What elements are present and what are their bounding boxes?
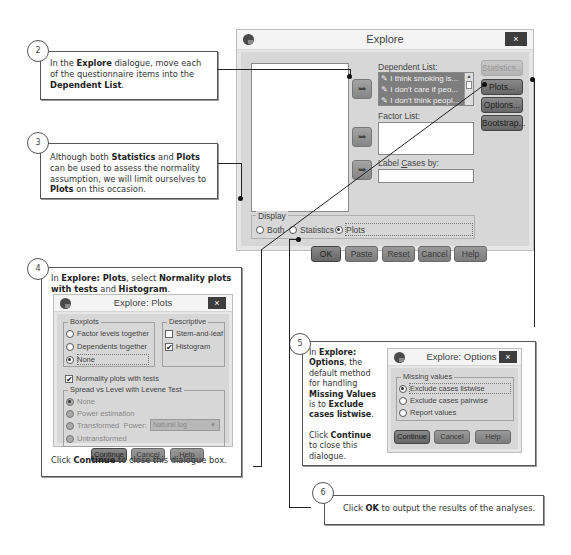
options-button[interactable]: Options... (481, 97, 523, 113)
explore-title: Explore (237, 33, 533, 45)
factor-list-label: Factor List: (378, 111, 420, 121)
callout-text: Although both Statistics and Plots can b… (50, 152, 206, 194)
plots-titlebar: Explore: Plots × (54, 295, 232, 312)
plots-body: Boxplots Factor levels together Dependen… (57, 314, 229, 443)
dependent-list-scrollbar[interactable]: ▲ (464, 73, 473, 105)
step-number-4: 4 (27, 258, 49, 280)
step-number-3: 3 (27, 132, 49, 154)
exclude-pairwise-radio[interactable]: Exclude cases pairwise (399, 396, 488, 406)
connector-line (261, 250, 262, 466)
close-icon[interactable]: × (208, 297, 226, 309)
power-estimation-radio[interactable]: Power estimation (66, 409, 135, 419)
exclude-listwise-radio[interactable]: Exclude cases listwise (399, 384, 485, 394)
explore-body: ➥ ➥ ➥ Dependent List: ✎ I think smoking … (241, 52, 529, 246)
callout-step-6: Click OK to output the results of the an… (324, 495, 544, 525)
callout-footer: Click Continue to close this dialogue. (309, 431, 379, 462)
callout-text: Click OK to output the results of the an… (343, 503, 535, 513)
paste-button[interactable]: Paste (345, 246, 378, 262)
bootstrap-button[interactable]: Bootstrap... (481, 115, 523, 131)
missing-values-group-label: Missing values (401, 372, 454, 382)
connector-line (218, 163, 241, 164)
connector-line (289, 507, 311, 508)
callout-step-3: Although both Statistics and Plots can b… (40, 143, 218, 199)
reset-button[interactable]: Reset (382, 246, 415, 262)
plots-title: Explore: Plots (54, 297, 232, 309)
stem-and-leaf-checkbox[interactable]: Stem-and-leaf (165, 329, 223, 339)
transformed-radio[interactable]: Transformed Power: (66, 421, 147, 431)
display-statistics-radio[interactable]: Statistics (289, 225, 334, 235)
callout-step-5: In Explore: Options, the default method … (302, 341, 536, 466)
connector-dot (238, 196, 243, 201)
explore-dialog: Explore × ➥ ➥ ➥ Dependent List: ✎ I thin… (236, 29, 534, 251)
connector-line (218, 69, 350, 70)
close-icon[interactable]: × (499, 351, 517, 363)
label-cases-field[interactable] (378, 169, 474, 183)
explore-titlebar: Explore × (237, 30, 533, 50)
callout-step-2: In the Explore dialogue, move each of th… (40, 51, 218, 100)
display-group: Display Both Statistics Plots (251, 215, 475, 239)
continue-button[interactable]: Continue (394, 430, 430, 444)
cancel-button[interactable]: Cancel (434, 430, 470, 444)
connector-line (241, 163, 242, 198)
source-variable-list[interactable] (251, 63, 349, 212)
explore-plots-dialog: Explore: Plots × Boxplots Factor levels … (53, 294, 233, 447)
boxplots-group: Boxplots Factor levels together Dependen… (63, 322, 155, 367)
normality-plots-checkbox[interactable]: ✔Normality plots with tests (65, 374, 159, 384)
none-radio[interactable]: None (66, 355, 95, 365)
factor-list[interactable] (378, 122, 474, 155)
connector-line (289, 239, 290, 507)
label-cases-label: Label Cases by: (378, 158, 439, 168)
connector-line (253, 466, 262, 467)
power-dropdown[interactable]: Natural log▼ (150, 419, 220, 431)
dependent-item[interactable]: ✎ I don't care if peo... (381, 85, 458, 94)
dependent-item[interactable]: ✎ I think smoking is... (381, 74, 458, 83)
options-titlebar: Explore: Options × (388, 349, 521, 366)
power-label: Power: (123, 421, 146, 431)
display-both-radio[interactable]: Both (256, 225, 285, 235)
move-to-label-cases-arrow-icon[interactable]: ➥ (352, 160, 372, 180)
options-body: Missing values Exclude cases listwise Ex… (391, 368, 518, 449)
connector-dot (530, 77, 535, 82)
cancel-button[interactable]: Cancel (418, 246, 451, 262)
untransformed-radio[interactable]: Untransformed (66, 434, 127, 444)
callout-footer: Click Continue to close this dialogue bo… (51, 455, 227, 466)
close-icon[interactable]: × (505, 32, 527, 46)
help-button[interactable]: Help (454, 246, 487, 262)
move-to-factor-arrow-icon[interactable]: ➥ (352, 127, 372, 147)
ok-button[interactable]: OK (311, 246, 341, 262)
statistics-button[interactable]: Statistics... (481, 60, 523, 76)
dependent-list-label: Dependent List: (378, 62, 438, 72)
callout-text: In the Explore dialogue, move each of th… (50, 58, 201, 90)
boxplots-group-label: Boxplots (68, 317, 101, 327)
step-number-2: 2 (27, 40, 49, 62)
histogram-checkbox[interactable]: ✔Histogram (165, 342, 210, 352)
spread-none-radio[interactable]: None (66, 397, 95, 407)
connector-line (534, 80, 535, 327)
descriptive-group: Descriptive Stem-and-leaf ✔Histogram (162, 322, 225, 367)
display-plots-radio[interactable]: Plots (335, 225, 365, 235)
dependents-together-radio[interactable]: Dependents together (66, 342, 147, 352)
display-group-label: Display (256, 211, 288, 221)
descriptive-group-label: Descriptive (167, 317, 208, 327)
move-to-dependent-arrow-icon[interactable]: ➥ (352, 79, 372, 99)
callout-text: In Explore: Plots, select Normality plot… (51, 273, 241, 295)
callout-step-4: In Explore: Plots, select Normality plot… (41, 267, 242, 477)
connector-dot (296, 237, 301, 242)
dependent-item[interactable]: ✎ I don't think peopl... (381, 96, 459, 105)
help-button[interactable]: Help (475, 430, 511, 444)
report-values-radio[interactable]: Report values (399, 408, 456, 418)
connector-dot (482, 82, 487, 87)
factor-levels-together-radio[interactable]: Factor levels together (66, 329, 149, 339)
explore-options-dialog: Explore: Options × Missing values Exclud… (387, 348, 522, 453)
spread-group-label: Spread vs Level with Levene Test (68, 385, 184, 395)
spread-vs-level-group: Spread vs Level with Levene Test None Po… (63, 390, 225, 447)
step-number-5: 5 (289, 333, 311, 355)
plots-button[interactable]: Plots... (481, 79, 523, 95)
dependent-list[interactable]: ✎ I think smoking is... ✎ I don't care i… (378, 72, 474, 106)
chevron-down-icon: ▼ (210, 420, 216, 430)
missing-values-group: Missing values Exclude cases listwise Ex… (396, 377, 514, 421)
step-number-6: 6 (312, 482, 334, 504)
connector-dot (347, 74, 352, 79)
callout-text: In Explore: Options, the default method … (309, 348, 379, 421)
